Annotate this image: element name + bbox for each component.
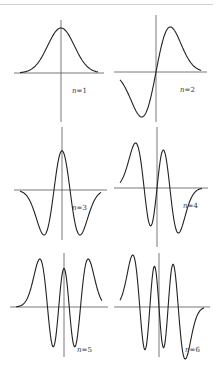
panel-label-n6: n=6 xyxy=(185,346,200,354)
panel-label-n1: n=1 xyxy=(72,87,87,95)
wavefunction-curve-n3 xyxy=(20,151,101,235)
panel-label-n4: n=4 xyxy=(183,202,198,210)
wavefunction-curve-n5 xyxy=(16,259,102,347)
wavefunction-figure: n=1 n=2 n=3 n=4 n=5 n=6 xyxy=(0,0,221,373)
panel-label-n3: n=3 xyxy=(72,204,87,212)
panel-label-n5: n=5 xyxy=(77,346,92,354)
panel-label-n2: n=2 xyxy=(180,86,195,94)
wavefunction-curve-n1 xyxy=(20,28,98,73)
